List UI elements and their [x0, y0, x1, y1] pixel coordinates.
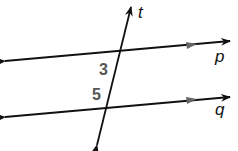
label-q: q: [215, 100, 224, 120]
parallel-marker-icon: [186, 42, 197, 49]
diagram-canvas: t p q 3 5: [0, 0, 238, 151]
line-q: [5, 97, 230, 117]
label-t: t: [138, 3, 143, 23]
angle-label-3: 3: [99, 61, 108, 79]
diagram-svg: [0, 0, 238, 151]
line-p: [5, 41, 230, 61]
label-p: p: [215, 47, 224, 67]
angle-label-5: 5: [92, 86, 101, 104]
